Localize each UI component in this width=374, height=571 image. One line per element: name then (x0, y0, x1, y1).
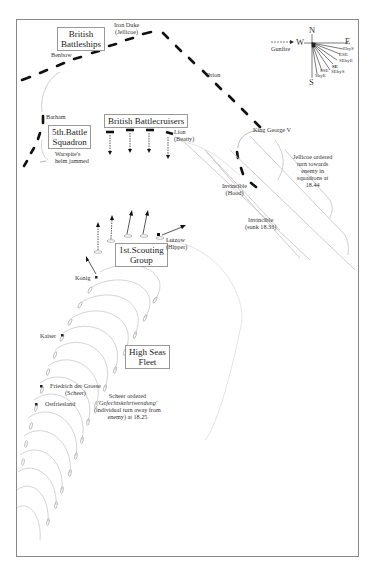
bearing-ese: ESE (339, 52, 348, 57)
konig-arrow (86, 256, 96, 274)
battle-map (0, 0, 374, 571)
compass-east: E (345, 37, 350, 46)
warspite-annotation: Warspite's helm jammed (55, 150, 89, 164)
ostfriesland-label: Ostfriesland (45, 400, 75, 407)
fifth-battle-squadron-box: 5th.Battle Squadron (48, 125, 91, 149)
jellicoe-order-annotation: Jellicoe ordered turn towards enemy in s… (293, 153, 332, 188)
compass-west: W (296, 38, 304, 47)
invincible-sunk-label: Invincible (sunk 18.33) (245, 216, 276, 230)
invincible-hood-label: Invincible (Hood) (222, 182, 247, 196)
gunfire-label: Gunfire (271, 45, 290, 52)
british-battlecruisers (106, 130, 173, 159)
scheer-order-annotation: Scheer ordered 'Gefechtskehrtwendung' (i… (94, 392, 161, 420)
benbow-label: Benbow (51, 51, 72, 58)
kgv-turn-track (238, 131, 262, 148)
first-scouting-group-box: 1st.Scouting Group (115, 243, 168, 267)
fifth-battle-squadron (24, 116, 43, 166)
british-battlecruisers-box: British Battlecruisers (104, 114, 188, 128)
bearing-ebys: EbyS (343, 46, 354, 51)
king-george-v-label: King George V (253, 126, 291, 133)
kaiser-label: Kaiser (40, 332, 56, 339)
konig-label: Konig (75, 274, 90, 281)
barham-label: Barham (46, 113, 66, 120)
bearing-sbye: SbyE (315, 73, 326, 78)
bearing-sebye: SEbyE (339, 58, 353, 63)
iron-duke-label: Iron Duke (Jellicoe) (114, 21, 139, 35)
high-seas-fleet-box: High Seas Fleet (125, 345, 170, 369)
compass-south: S (309, 78, 314, 87)
orion-label: Orion (206, 71, 220, 78)
lutzow-label: Lutzow (Hipper) (166, 236, 187, 250)
bearing-sebys: SEbyS (331, 69, 345, 74)
british-battleships-box: British Battleships (57, 27, 105, 51)
compass-north: N (309, 26, 315, 35)
lion-label: Lion (Beatty) (174, 128, 194, 142)
